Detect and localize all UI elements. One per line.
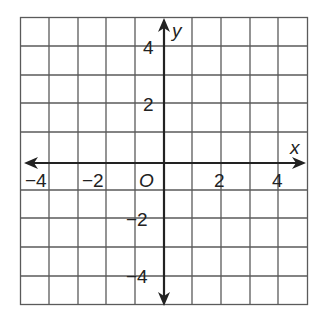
x-tick-neg4: −4	[25, 170, 47, 191]
y-tick-2: 2	[143, 94, 154, 115]
y-tick-neg4: −4	[126, 266, 148, 287]
y-tick-neg2: −2	[126, 209, 148, 230]
x-tick-neg2: −2	[82, 170, 104, 191]
origin-label: O	[139, 170, 154, 191]
y-tick-4: 4	[143, 37, 154, 58]
x-tick-2: 2	[214, 170, 225, 191]
x-axis-label: x	[289, 137, 301, 158]
x-tick-4: 4	[272, 170, 283, 191]
y-axis-label: y	[170, 20, 183, 41]
coordinate-plane: y x O −4 −2 2 4 4 2 −2 −4	[0, 0, 314, 317]
